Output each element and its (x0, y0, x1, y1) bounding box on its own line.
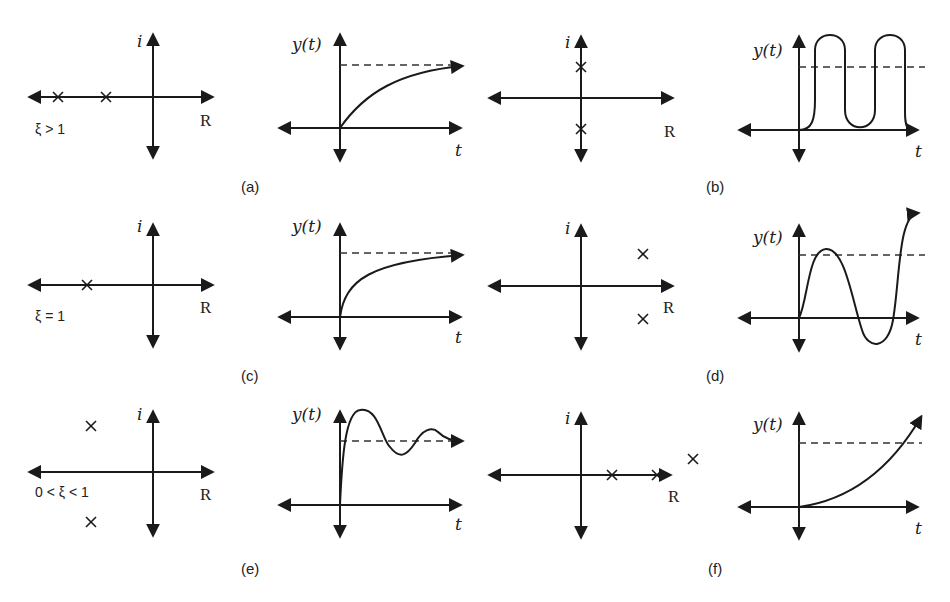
step-response-e: y(t) t (280, 404, 462, 536)
pole-marker (638, 314, 648, 324)
time-axis-label: t (915, 329, 922, 349)
pole-marker (86, 421, 96, 431)
real-axis-label: R (663, 298, 675, 317)
damping-condition: ξ = 1 (35, 308, 65, 324)
panel-caption: (f) (708, 560, 722, 577)
response-curve (340, 410, 462, 505)
real-axis-label: R (664, 122, 676, 141)
response-curve (340, 255, 462, 317)
response-axis-label: y(t) (291, 34, 322, 54)
response-curve (799, 417, 921, 507)
pole-plot-b: i R (490, 32, 676, 160)
damping-condition: 0 < ξ < 1 (35, 484, 89, 500)
real-axis-label: R (200, 298, 212, 317)
pole-marker (86, 517, 96, 527)
root-locus-figure: i R ξ > 1 y(t) t (a) i R y(t) (0, 0, 950, 602)
panel-c: i R ξ = 1 y(t) t (c) (30, 216, 462, 384)
damping-condition: ξ > 1 (35, 121, 65, 137)
response-curve (799, 35, 912, 130)
pole-marker (688, 454, 698, 464)
step-response-a: y(t) t (280, 34, 462, 160)
panel-f: i R y(t) t (f) (490, 408, 922, 577)
real-axis-label: R (668, 487, 680, 506)
panel-caption: (a) (241, 178, 259, 195)
panel-caption: (e) (241, 560, 259, 577)
pole-marker (638, 249, 648, 259)
step-response-b: y(t) t (740, 35, 925, 161)
step-response-d: y(t) t (740, 213, 925, 350)
response-axis-label: y(t) (752, 40, 783, 60)
response-axis-label: y(t) (291, 216, 322, 236)
imag-axis-label: i (137, 404, 142, 424)
pole-plot-f: i R (490, 408, 698, 537)
step-response-c: y(t) t (280, 216, 462, 348)
pole-plot-d: i R (490, 218, 675, 348)
pole-plot-a: i R ξ > 1 (30, 31, 212, 157)
real-axis-label: R (200, 111, 212, 130)
response-axis-label: y(t) (291, 404, 322, 424)
panel-b: i R y(t) t (b) (490, 32, 925, 195)
panel-caption: (b) (706, 178, 724, 195)
time-axis-label: t (915, 141, 922, 161)
real-axis-label: R (200, 485, 212, 504)
panel-caption: (c) (241, 367, 259, 384)
imag-axis-label: i (137, 31, 142, 51)
imag-axis-label: i (565, 32, 570, 52)
imag-axis-label: i (565, 408, 570, 428)
imag-axis-label: i (137, 216, 142, 236)
response-axis-label: y(t) (752, 227, 783, 247)
panel-e: i R 0 < ξ < 1 y(t) t (e) (30, 404, 462, 577)
time-axis-label: t (915, 518, 922, 538)
pole-plot-e: i R 0 < ξ < 1 (30, 404, 212, 535)
imag-axis-label: i (565, 218, 570, 238)
panel-caption: (d) (706, 367, 724, 384)
time-axis-label: t (455, 514, 462, 534)
time-axis-label: t (455, 327, 462, 347)
panel-d: i R y(t) t (d) (490, 213, 925, 384)
response-axis-label: y(t) (752, 414, 783, 434)
panel-a: i R ξ > 1 y(t) t (a) (30, 31, 462, 195)
response-curve (799, 213, 918, 344)
response-curve (340, 66, 462, 128)
time-axis-label: t (455, 140, 462, 160)
step-response-f: y(t) t (740, 414, 922, 538)
pole-plot-c: i R ξ = 1 (30, 216, 212, 346)
